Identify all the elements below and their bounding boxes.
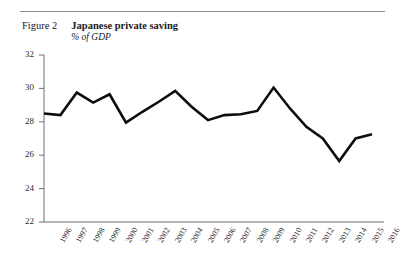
data-series-line [44, 88, 372, 161]
chart-plot-area: 222426283032 199619971998199920002001200… [0, 0, 404, 262]
chart-axes [44, 55, 384, 222]
figure-page: Figure 2 Japanese private saving % of GD… [0, 0, 404, 262]
y-tick-marks [39, 55, 44, 222]
y-tick-label: 30 [14, 82, 34, 92]
y-tick-label: 24 [14, 183, 34, 193]
y-tick-label: 32 [14, 49, 34, 59]
y-tick-label: 26 [14, 149, 34, 159]
y-tick-label: 22 [14, 216, 34, 226]
y-tick-label: 28 [14, 116, 34, 126]
line-chart-svg [0, 0, 404, 262]
axis-lines [44, 55, 384, 222]
